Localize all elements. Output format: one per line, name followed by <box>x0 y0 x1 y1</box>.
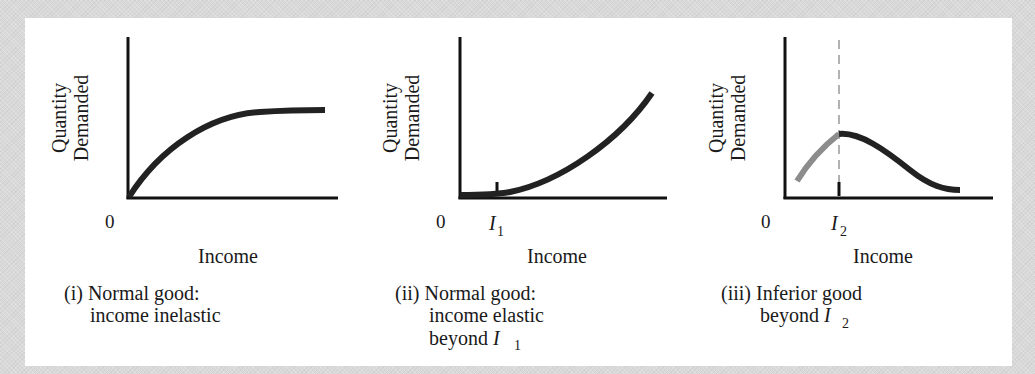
caption-line: beyond I <box>429 327 501 350</box>
origin-label: 0 <box>436 211 446 232</box>
y-axis-label: Demanded <box>70 75 92 162</box>
caption-line: income elastic <box>429 304 544 326</box>
origin-label: 0 <box>105 211 115 232</box>
income-demand-figure: Quantity Demanded 0 Income (i) Normal go… <box>0 0 1035 374</box>
caption-line: beyond I <box>760 304 832 327</box>
caption-line: (i) Normal good: <box>64 282 200 305</box>
y-axis-label: Quantity <box>705 83 728 153</box>
i1-label: I <box>488 212 497 234</box>
chart-normal-elastic: Quantity Demanded 0 I 1 Income (ii) Norm… <box>379 37 667 353</box>
chart-inferior: Quantity Demanded 0 I 2 Income (iii) Inf… <box>705 37 993 331</box>
i2-label: I <box>830 212 839 234</box>
i2-subscript: 2 <box>840 224 847 239</box>
x-axis-label: Income <box>853 245 913 267</box>
chart-normal-inelastic: Quantity Demanded 0 Income (i) Normal go… <box>48 37 338 326</box>
x-axis-label: Income <box>527 245 587 267</box>
caption-line: (ii) Normal good: <box>395 282 536 305</box>
i1-subscript: 1 <box>497 224 504 239</box>
caption-line: (iii) Inferior good <box>721 282 862 305</box>
caption-line: income inelastic <box>90 304 221 326</box>
caption-subscript: 2 <box>842 316 849 331</box>
y-axis-label: Quantity <box>379 83 402 153</box>
demand-curve-normal-segment <box>797 134 839 181</box>
y-axis-label: Demanded <box>727 75 749 162</box>
caption-subscript: 1 <box>514 338 521 353</box>
x-axis-label: Income <box>198 245 258 267</box>
demand-curve <box>129 110 325 197</box>
y-axis-label: Demanded <box>401 75 423 162</box>
y-axis-label: Quantity <box>48 83 71 153</box>
origin-label: 0 <box>761 211 771 232</box>
demand-curve-inferior-segment <box>839 134 960 190</box>
demand-curve <box>460 93 652 195</box>
